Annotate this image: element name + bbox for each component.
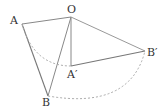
label-B: B [42, 96, 50, 109]
label-B-prime: B′ [147, 46, 158, 59]
segment-OA [22, 17, 71, 24]
segment-AB [22, 24, 48, 96]
arc-B-to-B-prime [48, 51, 145, 99]
label-A-prime: A′ [66, 68, 78, 81]
segment-A-prime-B-prime [71, 51, 145, 66]
segment-OB [48, 17, 71, 96]
label-A: A [9, 14, 19, 27]
label-O: O [67, 3, 76, 16]
rotation-diagram: O A B A′ B′ [0, 0, 167, 109]
segment-OB-prime [71, 17, 145, 51]
